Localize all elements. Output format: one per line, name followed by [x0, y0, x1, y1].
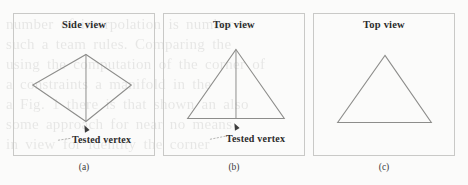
- panel-c-caption: (c): [313, 162, 455, 172]
- panel-b-caption: (b): [163, 162, 305, 172]
- tested-vertex-arrow-icon: [82, 124, 90, 133]
- diamond-outline: [33, 54, 132, 121]
- panel-b-tested-vertex-label: Tested vertex: [226, 133, 285, 144]
- figure-container: number of interpolation is number to suc…: [0, 0, 468, 185]
- panel-c-diagram: [314, 14, 454, 155]
- panel-a-side-view: Side view Tested vertex: [13, 13, 155, 156]
- panel-a-caption: (a): [13, 162, 155, 172]
- tested-vertex-leader-line: [210, 136, 225, 139]
- tested-vertex-arrow-icon: [232, 122, 240, 131]
- panel-b-top-view: Top view Tested vertex: [163, 13, 305, 156]
- triangle-outline: [338, 55, 432, 122]
- panel-c-top-view: Top view: [313, 13, 455, 156]
- tested-vertex-leader-line: [58, 138, 71, 140]
- panel-a-tested-vertex-label: Tested vertex: [72, 134, 131, 145]
